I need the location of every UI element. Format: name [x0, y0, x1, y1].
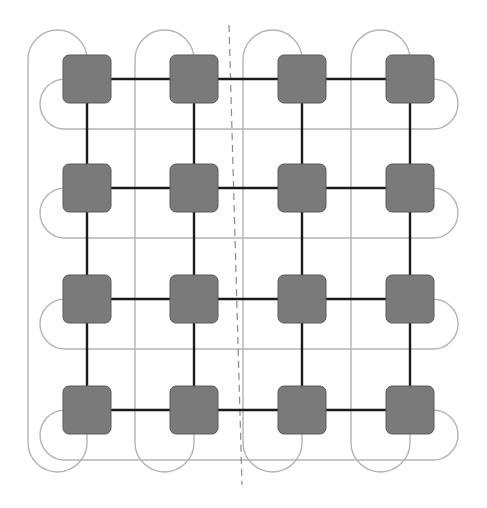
node-r2-c1 — [63, 164, 111, 212]
node-r1-c1 — [63, 55, 111, 103]
node-r3-c4 — [386, 275, 434, 323]
processor-nodes — [63, 55, 434, 434]
node-r4-c1 — [63, 386, 111, 434]
node-r4-c2 — [170, 386, 218, 434]
torus-network-diagram — [0, 0, 487, 508]
node-r2-c2 — [170, 164, 218, 212]
node-r4-c4 — [386, 386, 434, 434]
node-r3-c2 — [170, 275, 218, 323]
node-r2-c3 — [278, 164, 326, 212]
node-r1-c4 — [386, 55, 434, 103]
node-r3-c3 — [278, 275, 326, 323]
node-r2-c4 — [386, 164, 434, 212]
node-r1-c3 — [278, 55, 326, 103]
node-r4-c3 — [278, 386, 326, 434]
node-r1-c2 — [170, 55, 218, 103]
partition-divider-dashed-line — [229, 25, 242, 485]
node-r3-c1 — [63, 275, 111, 323]
